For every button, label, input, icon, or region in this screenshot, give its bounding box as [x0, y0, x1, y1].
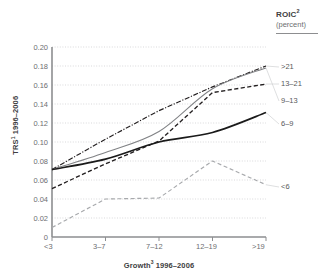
chart-figure: ROIC2 (percent) TRS1 1996–2006 Growth3 1… [0, 0, 321, 278]
gridlines [52, 47, 266, 218]
plot-area [0, 0, 321, 278]
series-line-13-21 [52, 84, 266, 189]
series-line-9-13 [52, 68, 266, 170]
series-line-21 [52, 66, 266, 170]
series-line-6 [52, 161, 266, 228]
series-paths [52, 66, 266, 228]
leader-lines [266, 66, 279, 187]
